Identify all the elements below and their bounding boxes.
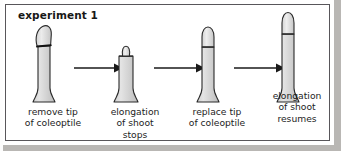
experiment-figure: experiment 1 bbox=[0, 0, 341, 151]
page-edge-left bbox=[0, 0, 3, 151]
stage-2: elongation of shoot stops bbox=[96, 16, 174, 136]
coleoptile-tip-replaced bbox=[178, 16, 256, 106]
stage-3-caption: replace tip of coleoptile bbox=[178, 106, 256, 129]
stage-2-caption: elongation of shoot stops bbox=[96, 106, 174, 140]
stage-3: replace tip of coleoptile bbox=[178, 16, 256, 136]
coleoptile-tip-removed bbox=[96, 16, 174, 106]
page-edge-bottom bbox=[0, 145, 341, 151]
stage-1-caption: remove tip of coleoptile bbox=[14, 106, 92, 129]
stage-4: elongation of shoot resumes bbox=[258, 8, 336, 128]
stage-1: remove tip of coleoptile bbox=[14, 16, 92, 136]
page-edge-right bbox=[334, 0, 341, 151]
stage-4-caption: elongation of shoot resumes bbox=[258, 90, 336, 124]
coleoptile-intact-tilted bbox=[14, 16, 92, 106]
